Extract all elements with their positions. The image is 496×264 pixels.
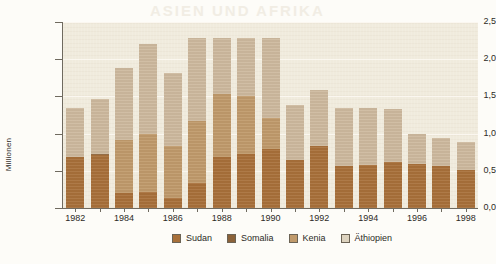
y-axis-label: Millionen [4,125,13,185]
bar-segment-äthiopien [91,99,109,155]
bar-segment-äthiopien [213,38,231,94]
x-axis-tick-label: 1998 [446,213,486,223]
bar-segment-sudan [335,166,353,208]
x-axis-tick-label: 1986 [153,213,193,223]
y-axis-tick [55,171,62,172]
legend-swatch [172,234,181,243]
bar-stack [115,68,133,208]
bar-segment-sudan [432,166,450,208]
bar-segment-sudan [262,149,280,208]
bar-stack [408,134,426,208]
bar-segment-sudan [237,154,255,208]
legend-item-somalia: Somalia [227,233,274,243]
bar-stack [335,108,353,208]
bar-segment-äthiopien [66,108,84,156]
x-axis-tick [197,208,198,212]
bar-segment-äthiopien [164,73,182,147]
legend-item-kenia: Kenia [289,233,326,243]
bar-stack [188,38,206,208]
x-axis-tick [148,208,149,212]
bar-stack [237,38,255,208]
bar-segment-äthiopien [335,108,353,166]
x-axis-tick [393,208,394,212]
bar-segment-äthiopien [310,90,328,145]
bar-segment-kenia [164,146,182,198]
legend-label: Sudan [186,233,212,243]
bar-segment-sudan [91,155,109,208]
x-axis-tick [441,208,442,212]
bar-segment-sudan [384,162,402,208]
chart-page: ASIEN UND AFRIKA 0,00,51,01,52,02,5 Mill… [0,0,496,264]
bar-segment-äthiopien [237,38,255,95]
bar-segment-äthiopien [457,142,475,170]
x-axis-tick [368,208,369,212]
bar-segment-kenia [188,121,206,183]
bar-segment-äthiopien [408,134,426,164]
y-axis-tick [55,22,62,23]
bar-segment-äthiopien [384,109,402,162]
bar-stack [432,138,450,208]
bar-segment-kenia [139,134,157,193]
x-axis-tick-label: 1988 [202,213,242,223]
legend-label: Äthiopien [355,233,393,243]
bar-stack [66,108,84,208]
bar-segment-sudan [164,198,182,208]
bar-stack [139,44,157,208]
x-axis-tick [124,208,125,212]
y-axis-tick [55,134,62,135]
bar-stack [286,105,304,208]
legend-item-äthiopien: Äthiopien [341,233,393,243]
legend-swatch [289,234,298,243]
bar-stack [213,38,231,208]
bar-stack [457,142,475,208]
bar-stack [310,90,328,208]
x-axis-tick [75,208,76,212]
x-axis-tick [466,208,467,212]
legend-label: Somalia [241,233,274,243]
bar-segment-sudan [139,192,157,208]
bar-stack [91,99,109,208]
bar-segment-kenia [115,140,133,194]
x-axis-tick [246,208,247,212]
x-axis-tick [173,208,174,212]
bar-segment-äthiopien [139,44,157,133]
bar-segment-äthiopien [286,105,304,160]
x-axis-tick-label: 1982 [55,213,95,223]
legend-swatch [341,234,350,243]
bar-segment-sudan [310,146,328,208]
x-axis-tick [100,208,101,212]
y-axis-tick [55,96,62,97]
bar-stack [359,108,377,208]
bar-segment-äthiopien [188,38,206,121]
bar-series-group [63,22,478,208]
bar-segment-äthiopien [115,68,133,139]
x-axis-tick-label: 1994 [348,213,388,223]
bar-stack [164,73,182,208]
bar-segment-äthiopien [359,108,377,165]
bar-segment-kenia [237,96,255,155]
bar-segment-sudan [286,160,304,208]
x-axis-tick-label: 1990 [251,213,291,223]
legend-swatch [227,234,236,243]
x-axis-tick [295,208,296,212]
x-axis-tick [319,208,320,212]
bar-segment-äthiopien [432,138,450,166]
x-axis-tick [222,208,223,212]
y-axis-tick [55,59,62,60]
x-axis-tick-label: 1996 [397,213,437,223]
bar-segment-kenia [262,118,280,149]
bar-segment-kenia [213,94,231,157]
x-axis-tick [344,208,345,212]
page-bleedthrough-artifact: ASIEN UND AFRIKA [150,2,350,24]
x-axis-tick-label: 1992 [299,213,339,223]
chart-legend: SudanSomaliaKeniaÄthiopien [172,233,392,243]
x-axis-tick-label: 1984 [104,213,144,223]
bar-stack [384,109,402,208]
bar-segment-sudan [457,170,475,208]
bar-segment-sudan [188,183,206,208]
x-axis-tick [417,208,418,212]
y-axis-tick [55,208,62,209]
legend-item-sudan: Sudan [172,233,212,243]
bar-segment-äthiopien [262,38,280,118]
bar-segment-sudan [359,165,377,208]
